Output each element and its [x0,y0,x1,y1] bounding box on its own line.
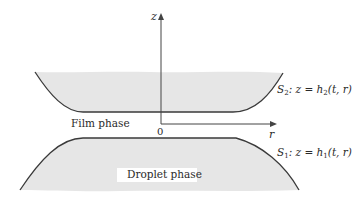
equation-args: (t, r) [328,83,352,95]
equation-prefix: : z = h [289,83,324,95]
droplet-phase-label: Droplet phase [127,168,202,180]
r-axis-label: r [269,128,274,141]
lower-surface-equation: S1: z = h1(t, r) [277,146,352,160]
film-phase-label: Film phase [71,117,130,129]
upper-region-fill [35,72,283,112]
equation-prefix: : z = h [289,146,324,158]
r-axis-arrowhead [270,121,277,127]
upper-surface-equation: S2: z = h2(t, r) [277,83,352,97]
equation-args: (t, r) [328,146,352,158]
lower-region-fill [20,138,299,191]
diagram-canvas: z r 0 Film phase Droplet phase S2: z = h… [0,0,354,204]
z-axis-label: z [151,10,157,23]
z-axis-arrowhead [158,13,164,20]
origin-label: 0 [157,126,163,137]
